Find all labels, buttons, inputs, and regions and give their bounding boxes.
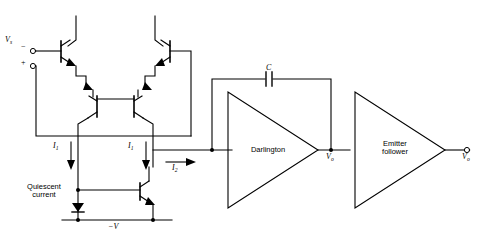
- upper-left-transistor-collector-lead: [68, 16, 76, 46]
- negative-supply-label: −V: [108, 223, 118, 232]
- q5-emitter-arrow: [145, 197, 155, 205]
- current-i2-label: I2: [172, 164, 177, 173]
- capacitor-label: C: [266, 64, 271, 73]
- q5-collector-lead: [140, 181, 149, 187]
- minus-input-sign: −: [21, 42, 26, 51]
- node-supply-left: [76, 218, 80, 222]
- figure-canvas: Vs − + I1 I1 I2 Quiescentcurrent −V C Da…: [0, 0, 486, 242]
- quiescent-current-label: Quiescentcurrent: [16, 183, 72, 199]
- minus-input-terminal: [30, 48, 35, 53]
- q3-emitter-lead: [88, 112, 97, 118]
- diode-body: [72, 203, 84, 212]
- q4-arrow-upper: [142, 82, 152, 90]
- upper-right-transistor-collector-lead: [155, 16, 163, 46]
- i2-arrow-head: [186, 158, 196, 166]
- plus-input-terminal: [30, 63, 35, 68]
- cap-left-lead: [212, 79, 265, 150]
- vo-output-label: Vo: [462, 153, 470, 162]
- q1-emitter-arrow: [66, 58, 76, 66]
- input-source-label: Vs: [5, 36, 12, 45]
- current-i1-right-label: I1: [128, 142, 133, 151]
- i1-left-arrow-head: [67, 160, 75, 170]
- darlington-block-label: Darlington: [238, 146, 298, 154]
- q3-arrow-upper: [83, 82, 93, 90]
- q4-emitter-lead: [134, 112, 143, 118]
- plus-input-feedback-rail: [36, 66, 191, 136]
- q1-q3-interconnect: [76, 66, 86, 86]
- q2-emitter-arrow: [155, 58, 165, 66]
- q2-q4-interconnect: [145, 66, 155, 86]
- q2-base-feedback-lead: [170, 51, 191, 136]
- vo-intermediate-label: Vo: [326, 153, 334, 162]
- plus-input-sign: +: [21, 58, 26, 67]
- q4-emitter-rail: [143, 118, 153, 167]
- current-i1-left-label: I1: [53, 142, 58, 151]
- emitter-follower-block-label: Emitterfollower: [368, 140, 422, 156]
- node-quiescent: [76, 188, 80, 192]
- circuit-schematic: [0, 0, 486, 242]
